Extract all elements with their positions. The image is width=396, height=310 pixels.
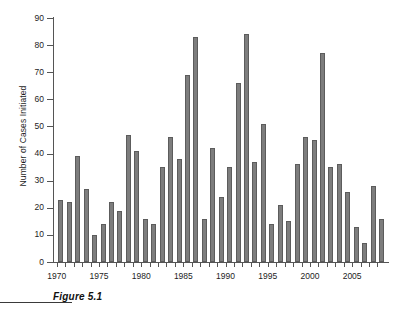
y-axis-tick-label: 30 (22, 175, 44, 185)
bar (109, 202, 114, 262)
bar (286, 221, 291, 262)
x-axis-tick (377, 263, 378, 267)
x-axis-tick (183, 263, 184, 267)
bar (261, 124, 266, 262)
x-axis-tick (369, 263, 370, 267)
bar (160, 167, 165, 262)
caption-rule (0, 302, 72, 303)
x-axis-tick (293, 263, 294, 267)
x-axis-tick (310, 263, 311, 267)
bar (278, 205, 283, 262)
x-axis-tick (141, 263, 142, 267)
bar (371, 186, 376, 262)
y-axis-tick-label: 0 (22, 257, 44, 267)
x-axis-tick (302, 263, 303, 267)
bar (354, 227, 359, 262)
x-axis-tick (318, 263, 319, 267)
bar (312, 140, 317, 262)
y-axis-tick-label: 50 (22, 121, 44, 131)
x-axis-tick (209, 263, 210, 267)
x-axis-tick (217, 263, 218, 267)
bar (320, 53, 325, 262)
bar (362, 243, 367, 262)
bar (345, 192, 350, 262)
bar (92, 235, 97, 262)
x-axis-tick (234, 263, 235, 267)
bar (151, 224, 156, 262)
x-axis-tick (251, 263, 252, 267)
bar (134, 151, 139, 262)
y-axis-tick-label: 70 (22, 67, 44, 77)
y-axis-tick-label: 60 (22, 94, 44, 104)
bar (269, 224, 274, 262)
x-axis-tick (65, 263, 66, 267)
x-axis-tick-label: 1985 (168, 271, 198, 281)
x-axis-tick (82, 263, 83, 267)
x-axis-tick (242, 263, 243, 267)
x-axis-tick (133, 263, 134, 267)
bar (210, 148, 215, 262)
x-axis-tick (268, 263, 269, 267)
x-axis-tick (344, 263, 345, 267)
bar (227, 167, 232, 262)
bar (193, 37, 198, 262)
bar (202, 219, 207, 262)
bar (168, 137, 173, 262)
bar (143, 219, 148, 262)
y-axis-tick-label: 80 (22, 40, 44, 50)
bar (252, 162, 257, 262)
x-axis-tick (200, 263, 201, 267)
bar (185, 75, 190, 262)
x-axis-tick (91, 263, 92, 267)
bar (177, 159, 182, 262)
x-axis-tick (116, 263, 117, 267)
bar (244, 34, 249, 262)
bar (337, 164, 342, 262)
bar (67, 202, 72, 262)
x-axis-tick-label: 1970 (42, 271, 72, 281)
figure-caption: Figure 5.1 (53, 291, 102, 302)
x-axis-tick (352, 263, 353, 267)
x-axis-tick (335, 263, 336, 267)
x-axis-tick (107, 263, 108, 267)
y-axis-tick-label: 90 (22, 13, 44, 23)
bars-plot-area (53, 18, 388, 262)
bar (101, 224, 106, 262)
x-axis-tick-label: 1980 (126, 271, 156, 281)
x-axis-tick (361, 263, 362, 267)
x-axis-tick-label: 1990 (211, 271, 241, 281)
x-axis-tick (166, 263, 167, 267)
bar (295, 164, 300, 262)
x-axis-tick-label: 1995 (253, 271, 283, 281)
x-axis-tick (175, 263, 176, 267)
x-axis-tick (226, 263, 227, 267)
x-axis-tick (192, 263, 193, 267)
y-axis-tick-label: 40 (22, 148, 44, 158)
x-axis-tick-label: 2005 (337, 271, 367, 281)
bar (58, 200, 63, 262)
y-axis-tick-label: 10 (22, 229, 44, 239)
x-axis-tick (124, 263, 125, 267)
x-axis-tick (74, 263, 75, 267)
x-axis-tick (158, 263, 159, 267)
y-axis-tick-label: 20 (22, 202, 44, 212)
x-axis-tick-label: 2000 (295, 271, 325, 281)
x-axis-tick (285, 263, 286, 267)
x-axis-tick (150, 263, 151, 267)
bar (219, 197, 224, 262)
x-axis-tick (57, 263, 58, 267)
x-axis-tick (259, 263, 260, 267)
x-axis-tick (276, 263, 277, 267)
bar (303, 137, 308, 262)
x-axis-tick (327, 263, 328, 267)
bar (117, 211, 122, 263)
y-axis-tick (47, 262, 53, 263)
bar (75, 156, 80, 262)
x-axis-line (53, 262, 389, 263)
figure-container: Number of Cases Initiated 01020304050607… (0, 0, 396, 310)
bar (84, 189, 89, 262)
bar (126, 135, 131, 262)
bar (328, 167, 333, 262)
bar (379, 219, 384, 262)
x-axis-tick-label: 1975 (84, 271, 114, 281)
